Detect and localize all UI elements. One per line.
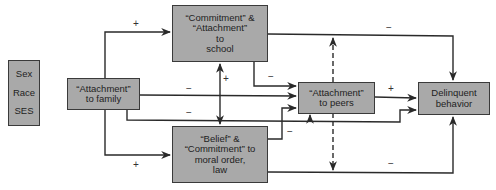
control-ses: SES <box>14 106 33 117</box>
edge-belief-delinquent <box>268 117 453 173</box>
node-label: to peers <box>319 98 353 109</box>
control-sex: Sex <box>16 69 32 80</box>
edge-school-delinquent <box>268 34 453 80</box>
node-label: to family <box>86 94 121 105</box>
sign-belief-peers: − <box>287 127 293 137</box>
control-variables-box: Sex Race SES <box>8 60 40 126</box>
node-belief-commitment-moral-order: “Belief” & “Commitment” to moral order, … <box>172 126 268 183</box>
edge-family-belief <box>105 110 170 155</box>
node-label: “Commitment” to <box>185 144 256 155</box>
node-attachment-to-family: “Attachment” to family <box>67 78 140 110</box>
edge-peers-delinquent <box>375 97 416 98</box>
node-label: behavior <box>436 99 472 110</box>
node-label: law <box>213 165 227 176</box>
sign-family-delinquent: − <box>186 108 192 118</box>
sign-school-delinquent: − <box>386 23 392 33</box>
node-attachment-to-peers: “Attachment” to peers <box>298 82 375 114</box>
node-label: “Attachment” <box>193 23 247 34</box>
control-race: Race <box>13 88 35 99</box>
sign-belief-delinquent: − <box>388 159 394 169</box>
sign-family-belief: + <box>133 160 139 170</box>
sign-family-school: + <box>133 19 139 29</box>
edge-family-school <box>105 32 170 78</box>
edge-family-peers <box>140 95 296 96</box>
node-label: Delinquent <box>431 88 476 99</box>
sign-school-belief: + <box>223 74 229 84</box>
edge-school-peers <box>254 62 296 86</box>
sign-peers-delinquent: + <box>388 84 394 94</box>
sign-school-peers: − <box>268 72 274 82</box>
node-delinquent-behavior: Delinquent behavior <box>418 82 490 115</box>
node-commitment-attachment-school: “Commitment” & “Attachment” to school <box>172 5 268 62</box>
node-label: school <box>206 44 233 55</box>
sign-family-peers: − <box>186 84 192 94</box>
